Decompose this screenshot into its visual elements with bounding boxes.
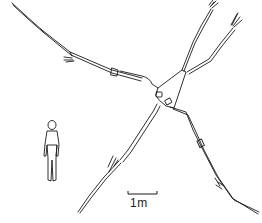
scale-bar: [128, 191, 157, 194]
human-scale-figure: [44, 121, 59, 182]
pterosaur-illustration: [0, 0, 262, 223]
scale-bar-label: 1m: [130, 196, 148, 210]
right-upper-limbs: [182, 0, 242, 74]
left-lower-wing: [78, 104, 160, 213]
left-wing: [12, 3, 158, 88]
body-triangle: [156, 70, 186, 108]
right-lower-wing: [170, 107, 259, 214]
